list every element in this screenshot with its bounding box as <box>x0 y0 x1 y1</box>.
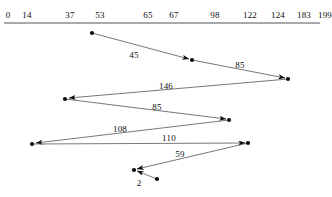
axis-tick-label: 65 <box>143 10 152 20</box>
edge-110 <box>32 143 245 144</box>
node-mid-2 <box>132 168 136 172</box>
node-right-1 <box>286 77 290 81</box>
edge-108 <box>36 120 229 143</box>
axis-tick-label: 183 <box>297 10 311 20</box>
node-right-2 <box>227 118 231 122</box>
edge-weight-label: 45 <box>129 50 138 60</box>
node-left-2 <box>30 142 34 146</box>
node-left-1 <box>63 97 67 101</box>
edge-weight-label: 108 <box>113 124 127 134</box>
node-mid-1 <box>190 58 194 62</box>
diagram-svg <box>0 0 332 197</box>
axis-tick-label: 199 <box>318 10 332 20</box>
node-start <box>90 31 94 35</box>
edge-59 <box>137 143 248 169</box>
edge-45 <box>92 33 189 59</box>
edge-weight-label: 59 <box>175 149 184 159</box>
edge-weight-label: 146 <box>159 81 173 91</box>
edge-weight-label: 85 <box>235 60 244 70</box>
axis-tick-label: 0 <box>6 10 11 20</box>
axis-tick-label: 124 <box>271 10 285 20</box>
edge-146 <box>69 79 288 98</box>
axis-tick-label: 37 <box>65 10 74 20</box>
axis-tick-label: 14 <box>22 10 31 20</box>
diagram-canvas: 0143753656798122124183199 45851468510811… <box>0 0 332 197</box>
node-right-3 <box>246 141 250 145</box>
axis-tick-label: 67 <box>169 10 178 20</box>
axis-tick-label: 122 <box>243 10 257 20</box>
node-end <box>155 177 159 181</box>
axis-tick-label: 53 <box>95 10 104 20</box>
edge-weight-label: 85 <box>152 102 161 112</box>
edge-85b <box>65 99 226 119</box>
edge-weight-label: 110 <box>162 133 176 143</box>
edge-weight-label: 2 <box>137 178 142 188</box>
axis-tick-label: 98 <box>210 10 219 20</box>
